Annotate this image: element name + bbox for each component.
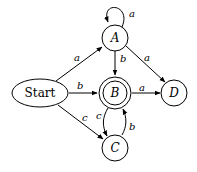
label-c-b: b <box>129 121 135 132</box>
edge-b-c <box>103 108 108 136</box>
state-diagram: a b c a b a a c b Start A B C D <box>0 0 197 172</box>
node-d-label: D <box>168 86 179 100</box>
label-b-c: c <box>96 110 102 121</box>
node-b-accepting: B <box>99 77 131 109</box>
node-c: C <box>102 135 128 161</box>
node-a: A <box>102 25 128 51</box>
node-start: Start <box>12 79 68 107</box>
label-b-d: a <box>139 82 145 93</box>
label-start-b: b <box>77 80 83 91</box>
label-a-loop: a <box>129 8 135 19</box>
node-b-label: B <box>110 86 120 100</box>
node-start-label: Start <box>25 86 56 100</box>
label-start-a: a <box>74 52 80 63</box>
edge-c-b <box>122 109 126 135</box>
label-a-d: a <box>144 52 150 63</box>
node-a-label: A <box>110 31 120 45</box>
label-start-c: c <box>82 112 88 123</box>
label-a-b: b <box>120 53 126 64</box>
node-d: D <box>161 80 187 106</box>
edge-a-loop <box>107 7 124 27</box>
node-c-label: C <box>110 141 119 155</box>
